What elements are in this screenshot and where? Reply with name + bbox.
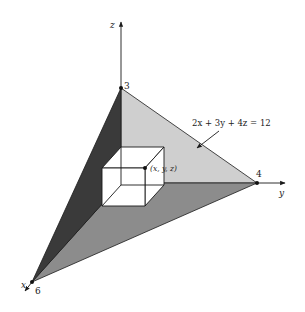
x-intercept-label: 6 <box>35 286 41 296</box>
equation-pointer-arrow <box>197 131 219 148</box>
point-label: (x, y, z) <box>150 164 177 173</box>
z-axis-label: z <box>109 20 115 30</box>
z-intercept-point <box>119 86 123 90</box>
y-intercept-point <box>255 181 259 185</box>
plane-equation-label: 2x + 3y + 4z = 12 <box>192 118 271 128</box>
plane-diagram: z y x 3 4 6 2x + 3y + 4z = 12 (x, y, z) <box>0 0 305 312</box>
box-corner-point <box>143 166 147 170</box>
x-intercept-point <box>30 280 34 284</box>
y-axis-label: y <box>278 188 285 198</box>
y-intercept-label: 4 <box>256 169 262 179</box>
z-intercept-label: 3 <box>124 81 130 91</box>
x-axis-label: x <box>21 280 26 290</box>
